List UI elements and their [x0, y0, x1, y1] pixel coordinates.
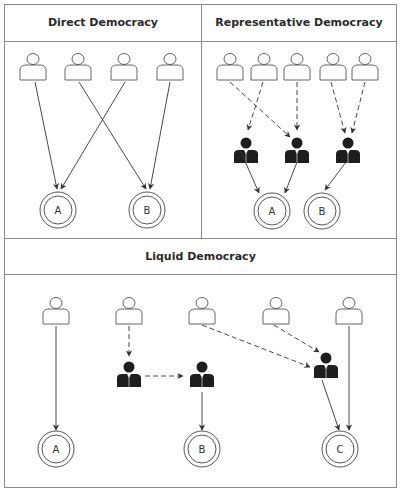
representatives [234, 138, 360, 164]
representative-icon [285, 138, 309, 164]
voter-icon [43, 298, 69, 325]
voter-icon [336, 298, 362, 325]
voter-icon [217, 54, 243, 81]
voter-icon [157, 54, 183, 81]
representative-voters [217, 54, 378, 81]
liquid-delegation-edges [129, 325, 319, 376]
delegate-icon [314, 353, 338, 379]
voter-icon [116, 298, 142, 325]
option-A-label: A [55, 205, 62, 216]
liquid-option-A-circle: A [38, 431, 74, 467]
delegate-icon [190, 362, 214, 388]
rep-option-A-label: A [269, 206, 276, 217]
representative-icon [234, 138, 258, 164]
representative-icon [336, 138, 360, 164]
liquid-option-C-circle: C [322, 431, 358, 467]
liquid-option-B-label: B [199, 444, 206, 455]
rep-option-B-label: B [319, 206, 326, 217]
diagram-canvas: A B A B [0, 0, 401, 492]
voter-icon [20, 54, 46, 81]
liquid-voters [43, 298, 362, 325]
voter-icon [251, 54, 277, 81]
rep-option-A-circle: A [254, 193, 290, 229]
liquid-option-C-label: C [337, 444, 344, 455]
voter-icon [111, 54, 137, 81]
representative-delegation-edges [230, 82, 365, 137]
voter-icon [320, 54, 346, 81]
direct-edges [35, 82, 170, 189]
liquid-delegates [117, 353, 338, 388]
voter-icon [189, 298, 215, 325]
voter-icon [65, 54, 91, 81]
rep-option-B-circle: B [304, 193, 340, 229]
liquid-option-A-label: A [53, 444, 60, 455]
voter-icon [284, 54, 310, 81]
direct-voters [20, 54, 183, 81]
liquid-option-B-circle: B [184, 431, 220, 467]
voter-icon [352, 54, 378, 81]
option-A-circle: A [40, 192, 76, 228]
option-B-label: B [144, 205, 151, 216]
delegate-icon [117, 362, 141, 388]
voter-icon [263, 298, 289, 325]
option-B-circle: B [129, 192, 165, 228]
